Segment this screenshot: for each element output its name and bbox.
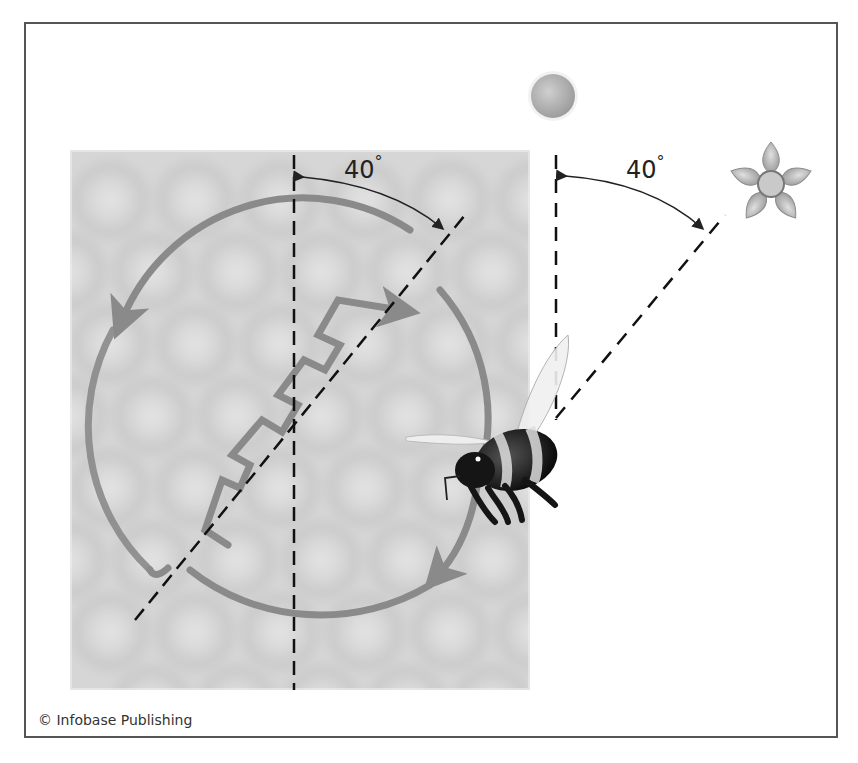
sun-icon [528,71,578,121]
comb-angle-label: 40° [344,156,383,184]
flower-icon [729,142,814,223]
sky-angle-label: 40° [626,156,665,184]
sky-flower-direction-line [556,215,725,418]
degree-symbol: ° [657,152,665,171]
sky-angle-value: 40 [626,156,657,184]
degree-symbol: ° [375,152,383,171]
copyright-credit: © Infobase Publishing [38,712,192,728]
comb-angle-value: 40 [344,156,375,184]
waggle-dance-diagram [0,0,858,763]
